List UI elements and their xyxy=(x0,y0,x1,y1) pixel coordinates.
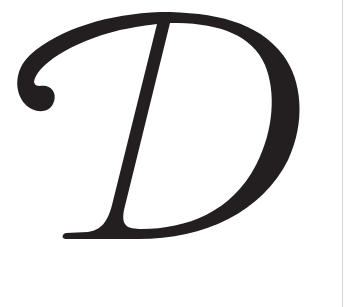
right-edge-divider xyxy=(342,0,343,307)
letter-d-glyph xyxy=(0,0,353,307)
letter-canvas: D xyxy=(0,0,353,307)
